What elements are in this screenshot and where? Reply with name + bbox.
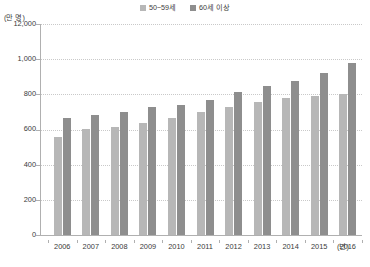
bar-chart: 50~59세 60세 이상 (만 명) 12,000 1,000 800 600… xyxy=(0,0,370,267)
y-tick-mark xyxy=(36,165,40,166)
gridline xyxy=(41,24,362,26)
bar-60-plus[interactable] xyxy=(320,73,328,235)
x-tick-label: 2011 xyxy=(192,242,218,251)
y-tick-label: 200 xyxy=(24,196,36,204)
y-tick-mark xyxy=(36,200,40,201)
y-tick-mark xyxy=(36,130,40,131)
bar-50-59[interactable] xyxy=(139,123,147,235)
y-tick-label: 1,000 xyxy=(18,55,37,63)
x-tick-label: 2015 xyxy=(306,242,332,251)
x-tick-label: 2013 xyxy=(249,242,275,251)
x-tick-mark xyxy=(362,240,363,243)
square-swatch-icon xyxy=(190,5,196,11)
bar-50-59[interactable] xyxy=(197,112,205,235)
bar-60-plus[interactable] xyxy=(120,112,128,235)
bar-60-plus[interactable] xyxy=(291,81,299,235)
bar-group xyxy=(225,92,243,235)
y-tick-label: 400 xyxy=(24,161,36,169)
bar-group xyxy=(110,112,128,235)
bar-group xyxy=(53,118,71,235)
x-tick-label: 2014 xyxy=(278,242,304,251)
square-swatch-icon xyxy=(140,5,146,11)
bar-50-59[interactable] xyxy=(111,127,119,235)
x-tick-label: 2009 xyxy=(135,242,161,251)
bar-group xyxy=(167,105,185,235)
plot-area xyxy=(40,24,362,236)
bar-60-plus[interactable] xyxy=(348,63,356,235)
x-tick-label: 2007 xyxy=(78,242,104,251)
x-axis-tick-labels: 2006200720082009201020112012201320142015… xyxy=(40,240,362,254)
y-tick-label: 800 xyxy=(24,90,36,98)
x-tick-label: 2006 xyxy=(49,242,75,251)
x-axis-line xyxy=(40,235,362,236)
bar-50-59[interactable] xyxy=(225,107,233,235)
y-axis-tick-labels: 12,000 1,000 800 600 400 200 0 xyxy=(0,24,36,236)
legend-item-label: 60세 이상 xyxy=(199,4,230,12)
bar-50-59[interactable] xyxy=(311,96,319,235)
bar-50-59[interactable] xyxy=(339,94,347,235)
y-tick-mark xyxy=(36,235,40,236)
y-tick-label: 600 xyxy=(24,125,36,133)
bar-60-plus[interactable] xyxy=(234,92,242,235)
bar-50-59[interactable] xyxy=(168,118,176,235)
bar-50-59[interactable] xyxy=(254,102,262,235)
bar-60-plus[interactable] xyxy=(63,118,71,235)
y-tick-mark xyxy=(36,94,40,95)
bar-group xyxy=(196,100,214,235)
legend-item-label: 50~59세 xyxy=(149,4,176,12)
bar-group xyxy=(139,107,157,235)
bar-group xyxy=(339,63,357,235)
x-tick-label: 2012 xyxy=(221,242,247,251)
x-tick-label: 2010 xyxy=(163,242,189,251)
gridline xyxy=(41,59,362,61)
chart-legend: 50~59세 60세 이상 xyxy=(0,2,370,14)
bar-60-plus[interactable] xyxy=(91,115,99,235)
bar-60-plus[interactable] xyxy=(206,100,214,235)
bar-group xyxy=(253,86,271,235)
bar-50-59[interactable] xyxy=(82,129,90,235)
legend-item-60-plus[interactable]: 60세 이상 xyxy=(190,4,230,12)
bar-60-plus[interactable] xyxy=(263,86,271,235)
bar-group xyxy=(310,73,328,235)
y-tick-mark xyxy=(36,59,40,60)
bar-group xyxy=(82,115,100,235)
bar-group xyxy=(282,81,300,235)
y-tick-mark xyxy=(36,24,40,25)
bar-50-59[interactable] xyxy=(54,137,62,235)
y-tick-label: 12,000 xyxy=(13,20,36,28)
x-tick-label: 2008 xyxy=(106,242,132,251)
legend-item-50-59[interactable]: 50~59세 xyxy=(140,4,176,12)
bar-50-59[interactable] xyxy=(282,98,290,235)
bar-60-plus[interactable] xyxy=(177,105,185,235)
bar-60-plus[interactable] xyxy=(148,107,156,235)
x-axis-unit-label: (년) xyxy=(337,242,349,251)
